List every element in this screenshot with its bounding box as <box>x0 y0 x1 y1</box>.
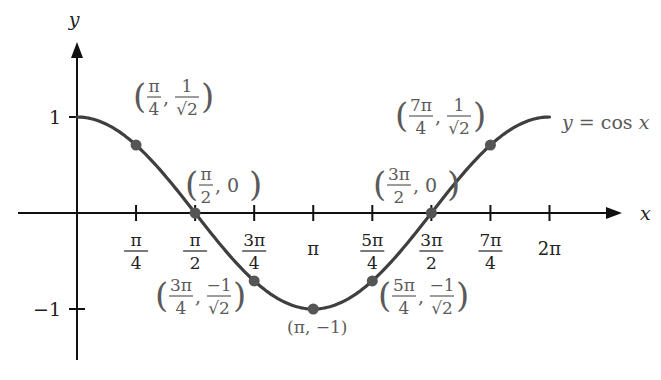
x-tick-label: 3π2 <box>419 230 443 273</box>
svg-text:3π: 3π <box>420 230 442 250</box>
x-axis-label: x <box>640 202 651 224</box>
svg-text:π: π <box>190 230 201 250</box>
svg-text:−1: −1 <box>206 275 231 295</box>
y-tick-label: −1 <box>33 298 61 320</box>
svg-text:2π: 2π <box>538 238 561 259</box>
x-tick-label: π2 <box>183 230 207 273</box>
svg-text:4: 4 <box>176 298 187 318</box>
point-label: (π, −1) <box>287 317 347 337</box>
svg-text:√2: √2 <box>448 118 470 138</box>
svg-text:1: 1 <box>454 95 465 115</box>
x-tick-label: π4 <box>124 230 148 273</box>
y-axis-label: y <box>68 8 80 30</box>
data-point <box>249 275 260 286</box>
labels: xyπ4π23π4π5π43π27π42π1−1y = cos x(π4,1√2… <box>33 8 651 337</box>
svg-text:√2: √2 <box>208 298 230 318</box>
svg-text:3π: 3π <box>170 275 192 295</box>
svg-text:3π: 3π <box>243 230 265 250</box>
point-label: (3π2, 0) <box>373 164 460 207</box>
svg-text:2: 2 <box>190 253 201 273</box>
data-point <box>426 208 437 219</box>
svg-text:): ) <box>249 164 262 204</box>
point-label: (π4,1√2) <box>133 76 214 119</box>
cosine-graph: xyπ4π23π4π5π43π27π42π1−1y = cos x(π4,1√2… <box>0 0 661 380</box>
svg-text:π: π <box>148 76 159 96</box>
svg-text:, 0: , 0 <box>413 174 437 196</box>
svg-text:(: ( <box>155 275 168 315</box>
x-tick-label: 2π <box>538 238 561 259</box>
svg-text:, 0: , 0 <box>215 174 239 196</box>
x-tick-label: π <box>307 238 319 259</box>
x-axis-arrow-icon <box>606 207 622 219</box>
svg-text:,: , <box>195 285 201 307</box>
svg-text:): ) <box>456 275 469 315</box>
svg-text:,: , <box>435 105 441 127</box>
svg-text:(: ( <box>378 275 391 315</box>
data-point <box>367 275 378 286</box>
svg-text:2: 2 <box>426 253 437 273</box>
svg-text:√2: √2 <box>431 298 453 318</box>
point-label: (7π4,1√2) <box>395 95 486 138</box>
point-label: (π2, 0) <box>185 164 262 207</box>
svg-text:(: ( <box>133 76 146 116</box>
svg-text:5π: 5π <box>361 230 383 250</box>
point-label: (3π4,−1√2) <box>155 275 246 318</box>
svg-text:4: 4 <box>131 253 142 273</box>
svg-text:1: 1 <box>182 76 193 96</box>
data-point <box>190 208 201 219</box>
data-point <box>308 304 319 315</box>
svg-text:π: π <box>200 164 211 184</box>
data-point <box>131 140 142 151</box>
svg-text:4: 4 <box>367 253 378 273</box>
x-tick-label: 5π4 <box>360 230 384 273</box>
svg-text:): ) <box>233 275 246 315</box>
svg-text:): ) <box>201 76 214 116</box>
svg-text:4: 4 <box>416 118 427 138</box>
x-tick-label: 3π4 <box>242 230 266 273</box>
svg-text:(: ( <box>373 164 386 204</box>
y-tick-label: 1 <box>49 106 61 128</box>
svg-text:7π: 7π <box>479 230 501 250</box>
point-label: (5π4,−1√2) <box>378 275 469 318</box>
svg-text:√2: √2 <box>176 99 198 119</box>
svg-text:,: , <box>163 86 169 108</box>
function-label: y = cos x <box>561 111 650 133</box>
axes <box>18 42 622 360</box>
svg-text:π: π <box>307 238 319 259</box>
svg-text:(: ( <box>395 95 408 135</box>
svg-text:2: 2 <box>394 187 405 207</box>
svg-text:): ) <box>473 95 486 135</box>
svg-text:4: 4 <box>485 253 496 273</box>
svg-text:2: 2 <box>201 187 212 207</box>
svg-text:3π: 3π <box>388 164 410 184</box>
x-tick-label: 7π4 <box>478 230 502 273</box>
svg-text:): ) <box>447 164 460 204</box>
svg-text:,: , <box>418 285 424 307</box>
svg-text:4: 4 <box>399 298 410 318</box>
svg-text:5π: 5π <box>393 275 415 295</box>
y-axis-arrow-icon <box>71 42 83 58</box>
svg-text:−1: −1 <box>429 275 454 295</box>
svg-text:4: 4 <box>149 99 160 119</box>
svg-text:7π: 7π <box>410 95 432 115</box>
svg-text:4: 4 <box>249 253 260 273</box>
svg-text:(: ( <box>185 164 198 204</box>
data-point <box>485 140 496 151</box>
svg-text:π: π <box>130 230 141 250</box>
